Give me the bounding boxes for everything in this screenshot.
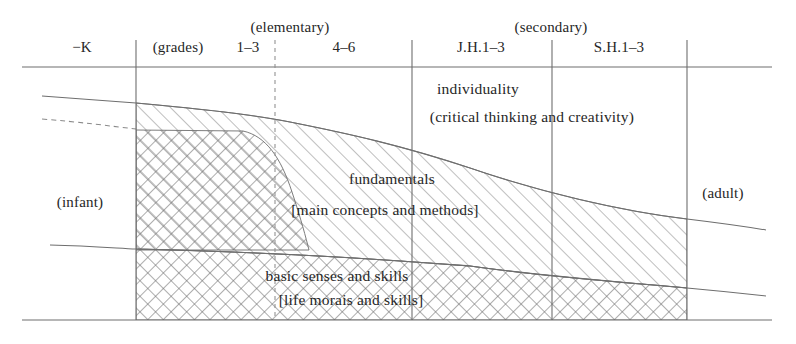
band-label-fundamentals: fundamentals <box>349 171 435 187</box>
group-header-elementary: (elementary) <box>250 20 329 35</box>
side-label-adult: (adult) <box>702 186 743 201</box>
band-label-individuality-sub: (critical thinking and creativity) <box>430 109 634 125</box>
diagram-canvas: (elementary) (secondary) −K (grades) 1–3… <box>0 0 796 344</box>
stage-header-pre-k: −K <box>72 40 92 55</box>
stage-header-grades: (grades) <box>153 40 204 55</box>
side-label-infant: (infant) <box>57 195 104 210</box>
group-header-secondary: (secondary) <box>515 20 588 35</box>
stage-header-senior-high: S.H.1–3 <box>594 40 645 55</box>
stage-header-junior-high: J.H.1–3 <box>457 40 505 55</box>
band-label-basic-senses: basic senses and skills <box>266 268 409 284</box>
stage-header-grades-4-6: 4–6 <box>332 40 355 55</box>
band-label-basic-senses-sub: [life morais and skills] <box>279 292 424 308</box>
upper-boundary-dashed-tail <box>42 119 136 129</box>
band-label-fundamentals-sub: [main concepts and methods] <box>291 202 478 218</box>
band-label-individuality: individuality <box>437 81 519 97</box>
stage-header-grades-1-3: 1–3 <box>236 40 259 55</box>
